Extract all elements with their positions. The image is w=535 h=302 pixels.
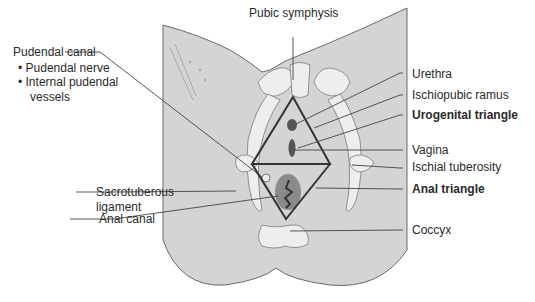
label-sacrotuberous-ligament: Sacrotuberous <box>96 185 174 199</box>
label-urogenital-triangle: Urogenital triangle <box>412 108 518 122</box>
label-anal-canal: Anal canal <box>99 212 155 226</box>
label-pudendal-nerve: • Pudendal nerve <box>18 61 110 75</box>
label-anal-triangle: Anal triangle <box>412 182 485 196</box>
vagina-shape <box>289 139 296 157</box>
urethra-shape <box>287 119 297 131</box>
label-pudendal-canal: Pudendal canal <box>13 45 96 59</box>
label-ischial-tuberosity: Ischial tuberosity <box>412 160 501 174</box>
label-coccyx: Coccyx <box>412 223 451 237</box>
label-internal-pudendal-vessels-cont: vessels <box>30 90 70 104</box>
label-pubic-symphysis: Pubic symphysis <box>249 6 338 20</box>
label-urethra: Urethra <box>412 67 452 81</box>
label-vagina: Vagina <box>412 143 448 157</box>
label-ischiopubic-ramus: Ischiopubic ramus <box>412 88 509 102</box>
label-internal-pudendal-vessels: • Internal pudendal <box>18 75 118 89</box>
